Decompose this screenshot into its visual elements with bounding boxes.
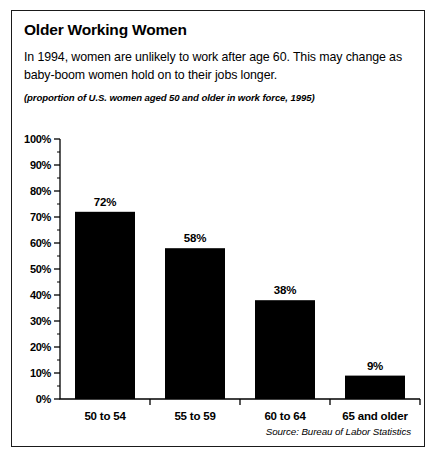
y-axis-label: 60% bbox=[30, 237, 52, 249]
y-axis-label: 30% bbox=[30, 315, 52, 327]
x-axis-category-label: 60 to 64 bbox=[264, 410, 306, 422]
infographic-panel: Older Working Women In 1994, women are u… bbox=[11, 10, 425, 447]
y-axis-label: 10% bbox=[30, 367, 52, 379]
y-axis-label: 100% bbox=[24, 133, 51, 145]
y-axis-label: 40% bbox=[30, 289, 52, 301]
bar-value-label: 38% bbox=[274, 284, 296, 296]
bar bbox=[255, 300, 315, 399]
y-axis-label: 20% bbox=[30, 341, 52, 353]
x-axis-category-label: 50 to 54 bbox=[84, 410, 126, 422]
y-axis-label: 0% bbox=[36, 393, 52, 405]
source-note: Source: Bureau of Labor Statistics bbox=[266, 426, 411, 437]
y-axis-label: 90% bbox=[30, 159, 52, 171]
bar bbox=[165, 248, 225, 399]
bar-value-label: 72% bbox=[94, 196, 116, 208]
bar-value-label: 58% bbox=[184, 232, 206, 244]
bar-value-label: 9% bbox=[367, 360, 383, 372]
bar bbox=[75, 212, 135, 399]
x-axis-category-label: 55 to 59 bbox=[174, 410, 215, 422]
x-axis-category-label: 65 and older bbox=[342, 410, 408, 422]
bar-chart: 100%90%80%70%60%50%40%30%20%10%0%72%50 t… bbox=[12, 11, 426, 448]
bar bbox=[345, 376, 405, 399]
y-axis-label: 80% bbox=[30, 185, 52, 197]
y-axis-label: 70% bbox=[30, 211, 52, 223]
y-axis-label: 50% bbox=[30, 263, 52, 275]
